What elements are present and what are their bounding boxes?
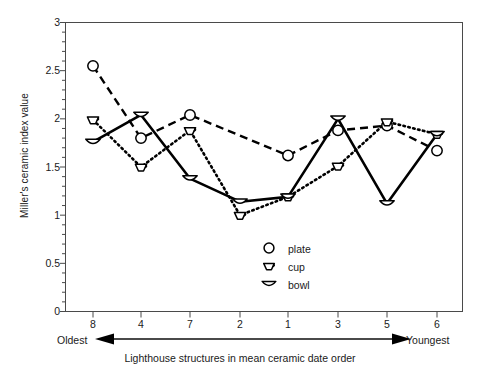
plot-canvas — [0, 0, 480, 373]
x-tick-marks — [93, 312, 437, 318]
chart-figure: Miller's ceramic index value 0 0.5 1 1.5… — [0, 0, 480, 373]
series-markers — [86, 61, 444, 220]
direction-arrow — [95, 334, 411, 345]
legend-markers — [262, 243, 276, 285]
plot-frame — [66, 23, 463, 312]
